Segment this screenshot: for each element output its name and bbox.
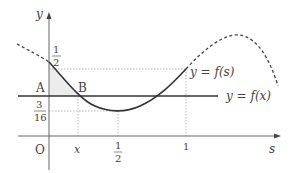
x-tick-half-num: 1	[115, 140, 121, 151]
x-tick-one: 1	[183, 141, 189, 152]
line-fx-label: y = f(x)	[225, 89, 271, 103]
x-tick-half-den: 2	[115, 153, 121, 164]
y-tick-3-16-num: 3	[36, 99, 42, 110]
y-axis-arrow-icon	[47, 12, 52, 19]
curve-dashed-left	[17, 44, 49, 62]
x-axis-label: s	[269, 142, 275, 156]
curve-fs-label: y = f(s)	[189, 65, 235, 79]
x-axis-arrow-icon	[274, 134, 281, 139]
y-tick-3-16-den: 16	[34, 112, 47, 123]
diagram-canvas: y s O 1 2 3 16 A B x 1 2 1 y = f(s) y = …	[0, 0, 294, 173]
origin-label: O	[35, 143, 45, 157]
y-axis-label: y	[35, 7, 43, 21]
x-tick-x: x	[74, 143, 81, 156]
guide-lines	[49, 69, 186, 136]
point-b-label: B	[78, 81, 87, 95]
y-tick-half-num: 1	[53, 44, 59, 55]
y-tick-half-den: 2	[53, 57, 59, 68]
point-a-label: A	[35, 81, 45, 95]
